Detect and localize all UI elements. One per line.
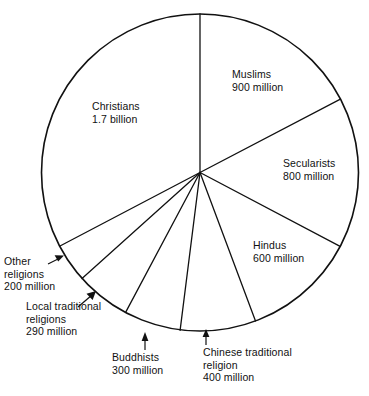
slice-label-secularists-value: 800 million bbox=[283, 170, 335, 183]
slice-label-buddhists: Buddhists 300 million bbox=[112, 351, 163, 376]
slice-label-chinese-value: 400 million bbox=[203, 371, 292, 384]
slice-label-chinese-name-line2: religion bbox=[203, 359, 292, 372]
leader-buddhists bbox=[142, 332, 149, 350]
slice-label-christians-name: Christians bbox=[92, 100, 140, 113]
slice-label-buddhists-name: Buddhists bbox=[112, 351, 163, 364]
slice-label-muslims-value: 900 million bbox=[232, 81, 283, 94]
divider-secularists-hindus bbox=[200, 173, 340, 247]
slice-label-secularists: Secularists 800 million bbox=[283, 157, 335, 182]
slice-label-local-value: 290 million bbox=[26, 325, 101, 338]
slice-label-other-name-line1: Other bbox=[4, 255, 55, 268]
divider-hindus-chinese bbox=[200, 173, 256, 322]
slice-label-other-religions: Other religions 200 million bbox=[4, 255, 55, 293]
slice-label-muslims: Muslims 900 million bbox=[232, 68, 283, 93]
slice-label-hindus-name: Hindus bbox=[253, 239, 304, 252]
slice-label-hindus-value: 600 million bbox=[253, 252, 304, 265]
slice-label-secularists-name: Secularists bbox=[283, 157, 335, 170]
slice-label-christians: Christians 1.7 billion bbox=[92, 100, 140, 125]
slice-label-local-name-line1: Local traditional bbox=[26, 300, 101, 313]
slice-label-chinese-name-line1: Chinese traditional bbox=[203, 346, 292, 359]
slice-label-local-traditional-religions: Local traditional religions 290 million bbox=[26, 300, 101, 338]
slice-label-chinese-traditional-religion: Chinese traditional religion 400 million bbox=[203, 346, 292, 384]
divider-buddhists-local bbox=[126, 173, 200, 313]
divider-chinese-buddhists bbox=[180, 173, 200, 331]
slice-label-local-name-line2: religions bbox=[26, 313, 101, 326]
slice-label-buddhists-value: 300 million bbox=[112, 364, 163, 377]
slice-label-hindus: Hindus 600 million bbox=[253, 239, 304, 264]
slice-label-other-value: 200 million bbox=[4, 280, 55, 293]
slice-label-other-name-line2: religions bbox=[4, 268, 55, 281]
pie-chart-figure: Muslims 900 million Secularists 800 mill… bbox=[0, 0, 369, 396]
slice-label-christians-value: 1.7 billion bbox=[92, 113, 140, 126]
slice-label-muslims-name: Muslims bbox=[232, 68, 283, 81]
